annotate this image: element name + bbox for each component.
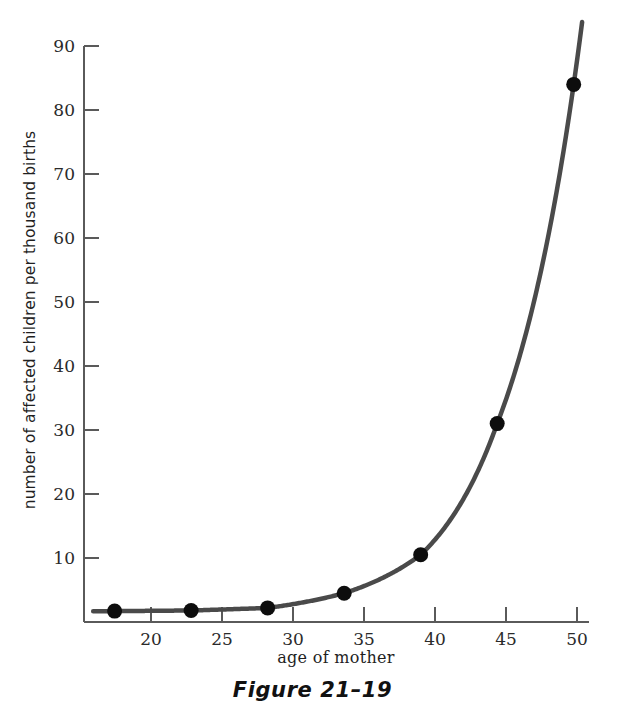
data-point-marker (490, 416, 505, 431)
data-point-markers (107, 77, 581, 619)
chart-svg: 90 80 70 60 50 40 30 20 10 (0, 0, 625, 660)
y-tick-labels: 90 80 70 60 50 40 30 20 10 (53, 36, 75, 568)
x-tick-label: 30 (282, 629, 304, 649)
x-tick-label: 50 (566, 629, 588, 649)
y-tick-label: 70 (53, 164, 75, 184)
x-tick-label: 20 (140, 629, 162, 649)
x-tick-label: 25 (211, 629, 233, 649)
y-tick-label: 80 (53, 100, 75, 120)
data-curve-line (93, 22, 582, 611)
data-point-marker (566, 77, 581, 92)
y-tick-marks (84, 46, 99, 558)
y-tick-label: 90 (53, 36, 75, 56)
data-point-marker (260, 600, 275, 615)
plot-area: 90 80 70 60 50 40 30 20 10 (0, 0, 625, 660)
y-tick-label: 40 (53, 356, 75, 376)
x-tick-label: 40 (424, 629, 446, 649)
x-tick-labels: 20 25 30 35 40 45 50 (140, 629, 588, 649)
x-axis-label: age of mother (84, 648, 588, 667)
data-point-marker (337, 586, 352, 601)
y-tick-label: 30 (53, 420, 75, 440)
y-tick-label: 50 (53, 292, 75, 312)
figure-caption: Figure 21–19 (0, 678, 625, 702)
y-tick-label: 10 (53, 548, 75, 568)
data-point-marker (107, 604, 122, 619)
y-axis-label: number of affected children per thousand… (16, 40, 44, 600)
y-tick-label: 60 (53, 228, 75, 248)
figure-root: 90 80 70 60 50 40 30 20 10 (0, 0, 625, 719)
x-tick-label: 35 (353, 629, 375, 649)
y-tick-label: 20 (53, 484, 75, 504)
data-point-marker (413, 547, 428, 562)
x-tick-label: 45 (495, 629, 517, 649)
data-point-marker (184, 603, 199, 618)
